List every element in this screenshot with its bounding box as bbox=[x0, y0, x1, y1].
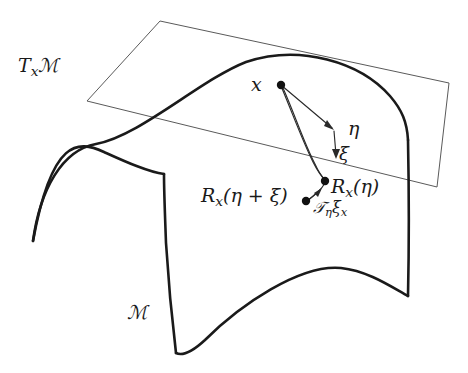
retraction-sum-arg: (η + ξ) bbox=[223, 184, 288, 206]
retraction-eta-base: R bbox=[331, 175, 345, 197]
arrow-eta-shaft bbox=[281, 85, 332, 128]
retraction-sum-base: R bbox=[201, 184, 215, 206]
curve-retraction-eta-shadow bbox=[283, 88, 326, 181]
point-x bbox=[277, 81, 285, 89]
label-vector-transport: 𝒯ηξx bbox=[313, 200, 347, 219]
tangent-space-manifold-glyph: ℳ bbox=[38, 54, 58, 76]
label-eta: η bbox=[348, 119, 359, 138]
manifold-front-left-edge bbox=[164, 174, 176, 353]
label-point-x: x bbox=[251, 75, 262, 94]
retraction-eta-subscript: x bbox=[345, 184, 353, 200]
transport-xi: ξ bbox=[332, 198, 341, 217]
label-tangent-space: Txℳ bbox=[18, 56, 58, 79]
arrow-transport-head bbox=[314, 188, 322, 197]
tangent-space-base: T bbox=[18, 54, 31, 76]
arrow-eta-head bbox=[324, 120, 334, 130]
label-retraction-eta: Rx(η) bbox=[331, 177, 379, 200]
transport-subscript-eta: η bbox=[325, 205, 332, 219]
label-xi: ξ bbox=[339, 145, 349, 163]
transport-base: 𝒯 bbox=[313, 198, 325, 217]
manifold-right-edge bbox=[408, 140, 409, 296]
retraction-eta-arg: (η) bbox=[353, 175, 379, 197]
retraction-sum-subscript: x bbox=[215, 193, 223, 209]
point-retraction-eta bbox=[321, 177, 329, 185]
manifold-diagram: Txℳ ℳ x η ξ Rx(η) Rx(η + ξ) 𝒯ηξx bbox=[0, 0, 468, 373]
label-retraction-sum: Rx(η + ξ) bbox=[201, 186, 288, 209]
transport-subscript-x: x bbox=[341, 205, 348, 219]
manifold-front-bottom-edge bbox=[176, 268, 408, 354]
point-retraction-sum bbox=[302, 197, 310, 205]
manifold-left-fold bbox=[33, 146, 164, 241]
label-manifold: ℳ bbox=[127, 303, 147, 322]
